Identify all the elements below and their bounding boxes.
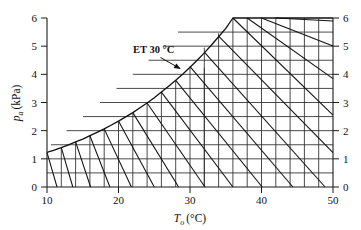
y-tick-labels-right: 0 1 2 3 4 5 6 [343, 12, 349, 193]
x-tick-label: 40 [256, 194, 268, 206]
y-axis-title-group: pa(kPa) [10, 85, 25, 123]
y-tick-label-right: 5 [343, 40, 349, 52]
y-tick-label-right: 0 [343, 181, 349, 193]
y-tick-label-left: 1 [32, 153, 38, 165]
x-axis-subscript: o [180, 218, 184, 227]
y-tick-label-right: 4 [343, 68, 349, 80]
y-tick-label-left: 3 [32, 97, 38, 109]
y-tick-label-left: 5 [32, 40, 38, 52]
x-axis-title-group: To(°C) [174, 212, 207, 227]
y-tick-label-right: 6 [343, 12, 349, 24]
y-tick-label-left: 6 [32, 12, 38, 24]
x-tick-label: 20 [113, 194, 125, 206]
y-axis-units: (kPa) [10, 85, 23, 110]
y-tick-label-right: 3 [343, 97, 349, 109]
y-tick-label-left: 0 [32, 181, 38, 193]
y-axis-title: pa(kPa) [10, 85, 25, 123]
y-axis-subscript: a [16, 112, 25, 116]
y-tick-label-right: 1 [343, 153, 349, 165]
y-tick-label-left: 4 [32, 68, 38, 80]
x-tick-label: 30 [185, 194, 197, 206]
figure-container: 0 1 2 3 4 5 6 0 1 2 3 4 5 6 10 20 30 40 … [0, 0, 361, 230]
x-tick-labels: 10 20 30 40 50 [42, 194, 340, 206]
y-tick-labels-left: 0 1 2 3 4 5 6 [32, 12, 38, 193]
et-annotation-label: ET 30 °C [133, 44, 174, 55]
psychrometric-chart: 0 1 2 3 4 5 6 0 1 2 3 4 5 6 10 20 30 40 … [0, 0, 361, 230]
x-tick-label: 50 [328, 194, 340, 206]
x-axis-title: To(°C) [174, 212, 207, 227]
y-tick-label-left: 2 [32, 125, 38, 137]
x-tick-label: 10 [42, 194, 54, 206]
x-axis-units: (°C) [186, 212, 206, 225]
y-tick-label-right: 2 [343, 125, 349, 137]
